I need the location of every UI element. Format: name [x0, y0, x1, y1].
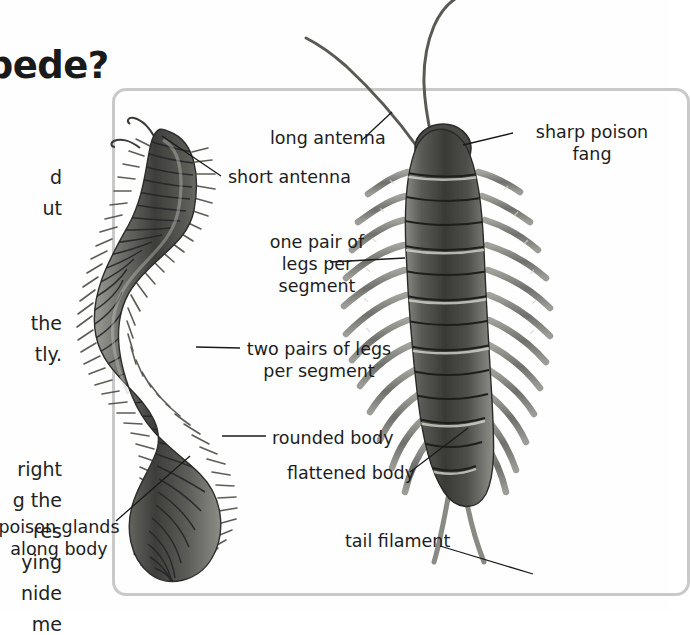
label-long-antenna: long antenna: [270, 127, 386, 149]
label-two-pairs-of-legs-per-segment: two pairs of legs per segment: [246, 338, 392, 382]
label-short-antenna: short antenna: [228, 166, 351, 188]
label-tail-filament: tail filament: [345, 530, 450, 552]
label-flattened-body: flattened body: [287, 462, 415, 484]
label-rounded-body: rounded body: [272, 427, 394, 449]
label-sharp-poison-fang: sharp poison fang: [522, 121, 662, 165]
label-one-pair-of-legs-per-segment: one pair of legs per segment: [262, 231, 372, 297]
label-poison-glands-along-body: poison glands along body: [0, 516, 132, 560]
